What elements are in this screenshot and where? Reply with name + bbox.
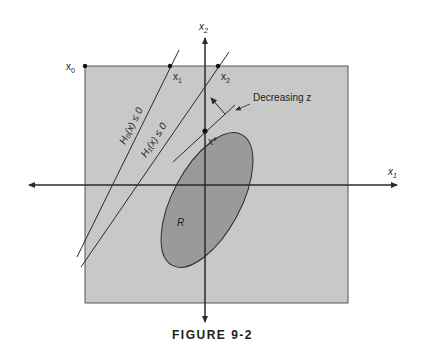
label-x0: x0 (66, 61, 75, 74)
label-xstar: x* (208, 136, 217, 147)
point-x1 (168, 64, 172, 68)
point-xstar (202, 128, 207, 133)
label-decreasing-z: Decreasing z (253, 92, 311, 103)
label-x2-axis: x2 (198, 21, 208, 34)
point-x2 (216, 64, 220, 68)
label-region-r: R (177, 217, 184, 228)
figure-diagram: x0 x1 x2 x* x2 x1 H₀(x) ≤ 0 H₁(x) ≤ 0 De… (0, 0, 425, 358)
figure-caption: FIGURE 9-2 (0, 328, 425, 342)
point-x0 (83, 64, 87, 68)
label-x1-axis: x1 (387, 166, 397, 179)
